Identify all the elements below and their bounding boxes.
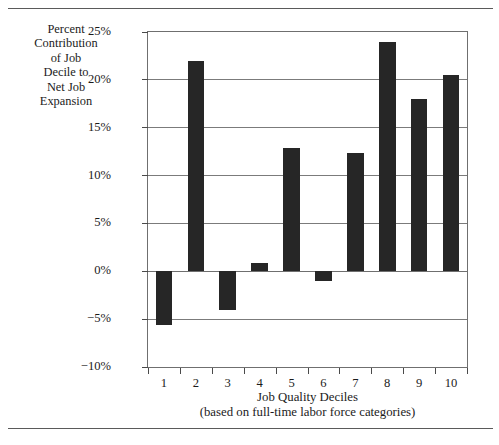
bar [188,61,205,272]
bar [443,75,460,271]
x-axis-tick-label: 1 [149,377,179,390]
bar [219,271,236,309]
y-axis-tick [142,175,148,176]
y-axis-tick-label: 10% [51,169,111,182]
x-axis-tick [403,368,404,374]
x-axis-tick-label: 2 [181,377,211,390]
x-axis-tick [339,368,340,374]
x-axis-subtitle: (based on full-time labor force categori… [117,405,498,420]
y-axis-tick-label: 0% [51,264,111,277]
x-axis-tick [148,368,149,374]
x-axis-tick-label: 10 [436,377,466,390]
figure-container: Percent Contribution of Job Decile to Ne… [0,0,499,445]
x-axis-tick-label: 5 [277,377,307,390]
x-axis-tick [467,368,468,374]
x-axis-tick [276,368,277,374]
y-axis-tick-label: 25% [51,25,111,38]
x-axis-tick-label: 4 [245,377,275,390]
bar [251,263,268,272]
y-axis-tick [142,223,148,224]
x-axis-tick-label: 7 [340,377,370,390]
bar [315,271,332,281]
x-axis-tick [212,368,213,374]
y-axis-tick [142,127,148,128]
x-axis-tick-label: 3 [213,377,243,390]
y-axis-tick [142,319,148,320]
y-axis-tick-label: 20% [51,73,111,86]
x-axis-tick [371,368,372,374]
x-axis-tick [244,368,245,374]
bar [411,99,428,271]
x-axis-tick [180,368,181,374]
bar [283,148,300,271]
plot-area [147,31,468,368]
y-axis-tick-label: −10% [51,360,111,373]
bar [156,271,173,325]
x-axis-title: Job Quality Deciles [147,390,468,405]
y-axis-tick-label: 5% [51,216,111,229]
y-axis-tick-labels: 25%20%15%10%5%0%−5%−10% [0,31,147,368]
top-horizontal-rule [8,8,493,9]
gridline [148,319,467,320]
x-axis-tick-label: 6 [308,377,338,390]
y-axis-tick-label: −5% [51,312,111,325]
y-axis-tick [142,32,148,33]
x-axis-tick-label: 8 [372,377,402,390]
x-axis-tick-label: 9 [404,377,434,390]
bar [347,153,364,272]
bar [379,42,396,272]
y-axis-tick [142,79,148,80]
y-axis-tick [142,271,148,272]
x-axis-tick [308,368,309,374]
x-axis-tick [435,368,436,374]
y-axis-tick-label: 15% [51,121,111,134]
bottom-horizontal-rule [8,428,493,429]
